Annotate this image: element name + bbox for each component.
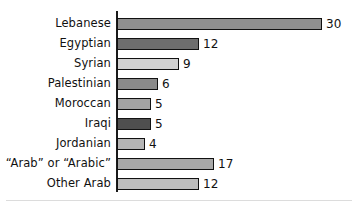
category-label-palestinian: Palestinian xyxy=(0,74,111,93)
table-row: Jordanian 4 xyxy=(0,134,358,153)
bar-value-other-arab: 12 xyxy=(203,178,218,190)
bar-palestinian xyxy=(117,78,158,90)
category-label-syrian: Syrian xyxy=(0,54,111,73)
bar-rows-container: Lebanese 30 Egyptian 12 Syrian 9 Palesti… xyxy=(0,0,358,204)
bar-group-iraqi: 5 xyxy=(117,114,163,133)
table-row: Iraqi 5 xyxy=(0,114,358,133)
table-row: Syrian 9 xyxy=(0,54,358,73)
category-label-jordanian: Jordanian xyxy=(0,134,111,153)
table-row: Palestinian 6 xyxy=(0,74,358,93)
category-label-other-arab: Other Arab xyxy=(0,174,111,193)
bar-group-jordanian: 4 xyxy=(117,134,157,153)
bar-other-arab xyxy=(117,178,199,190)
category-label-moroccan: Moroccan xyxy=(0,94,111,113)
bar-egyptian xyxy=(117,38,199,50)
bar-arab-or-arabic xyxy=(117,158,214,170)
bar-value-egyptian: 12 xyxy=(203,38,218,50)
page-edge-artifact xyxy=(6,200,352,201)
bar-group-palestinian: 6 xyxy=(117,74,170,93)
table-row: “Arab” or “Arabic” 17 xyxy=(0,154,358,173)
bar-jordanian xyxy=(117,138,145,150)
bar-moroccan xyxy=(117,98,151,110)
category-label-lebanese: Lebanese xyxy=(0,14,111,33)
bar-value-jordanian: 4 xyxy=(149,138,157,150)
bar-group-arab-or-arabic: 17 xyxy=(117,154,233,173)
bar-chart-figure: Lebanese 30 Egyptian 12 Syrian 9 Palesti… xyxy=(0,0,358,204)
table-row: Egyptian 12 xyxy=(0,34,358,53)
bar-value-moroccan: 5 xyxy=(155,98,163,110)
bar-group-syrian: 9 xyxy=(117,54,191,73)
bar-group-lebanese: 30 xyxy=(117,14,341,33)
table-row: Lebanese 30 xyxy=(0,14,358,33)
bar-value-iraqi: 5 xyxy=(155,118,163,130)
bar-lebanese xyxy=(117,18,322,30)
bar-group-moroccan: 5 xyxy=(117,94,163,113)
category-label-arab-or-arabic: “Arab” or “Arabic” xyxy=(0,154,111,173)
category-label-egyptian: Egyptian xyxy=(0,34,111,53)
bar-syrian xyxy=(117,58,179,70)
table-row: Moroccan 5 xyxy=(0,94,358,113)
bar-group-egyptian: 12 xyxy=(117,34,218,53)
bar-value-arab-or-arabic: 17 xyxy=(218,158,233,170)
bar-group-other-arab: 12 xyxy=(117,174,218,193)
category-label-iraqi: Iraqi xyxy=(0,114,111,133)
bar-value-lebanese: 30 xyxy=(326,18,341,30)
table-row: Other Arab 12 xyxy=(0,174,358,193)
bar-value-palestinian: 6 xyxy=(162,78,170,90)
bar-iraqi xyxy=(117,118,151,130)
bar-value-syrian: 9 xyxy=(183,58,191,70)
